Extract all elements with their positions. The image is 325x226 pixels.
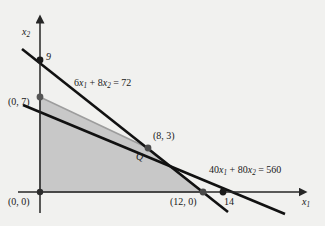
label-point-0-7: (0, 7) bbox=[8, 97, 30, 107]
point-marker-14-0 bbox=[220, 189, 227, 196]
point-marker-q bbox=[145, 145, 152, 152]
point-marker-0-9 bbox=[37, 57, 44, 64]
label-y-intercept-9: 9 bbox=[46, 52, 51, 62]
point-marker-0-7 bbox=[37, 94, 44, 101]
y-axis-label: x2 bbox=[22, 27, 30, 39]
label-point-8-3: (8, 3) bbox=[153, 131, 175, 141]
linear-programming-figure: x2 x1 9 (0, 7) (0, 0) (12, 0) 14 (8, 3) … bbox=[0, 0, 325, 226]
label-point-12-0: (12, 0) bbox=[170, 197, 197, 207]
point-marker-12-0 bbox=[200, 189, 207, 196]
feasible-region-polygon bbox=[40, 97, 203, 192]
x-axis-label: x1 bbox=[302, 197, 310, 209]
point-marker-0-0 bbox=[37, 189, 43, 195]
label-equation-6x1-8x2: 6x1 + 8x2 = 72 bbox=[74, 78, 131, 90]
label-point-0-0: (0, 0) bbox=[8, 197, 30, 207]
plot-canvas bbox=[0, 0, 325, 226]
label-point-14: 14 bbox=[224, 197, 234, 207]
label-vertex-q: Q bbox=[136, 152, 143, 162]
label-equation-40x1-80x2: 40x1 + 80x2 = 560 bbox=[209, 165, 281, 177]
